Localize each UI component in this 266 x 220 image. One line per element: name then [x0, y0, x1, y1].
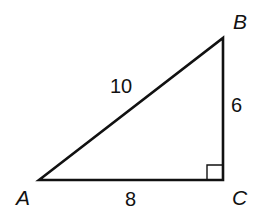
- right-angle-marker: [207, 165, 223, 180]
- side-label-ac: 8: [125, 188, 136, 210]
- triangle-diagram: B A C 10 6 8: [0, 0, 266, 220]
- side-label-ab: 10: [110, 75, 132, 97]
- triangle-abc: [39, 38, 223, 180]
- vertex-label-a: A: [14, 186, 30, 209]
- vertex-label-b: B: [233, 10, 247, 33]
- vertex-label-c: C: [232, 186, 248, 209]
- side-label-bc: 6: [231, 94, 242, 116]
